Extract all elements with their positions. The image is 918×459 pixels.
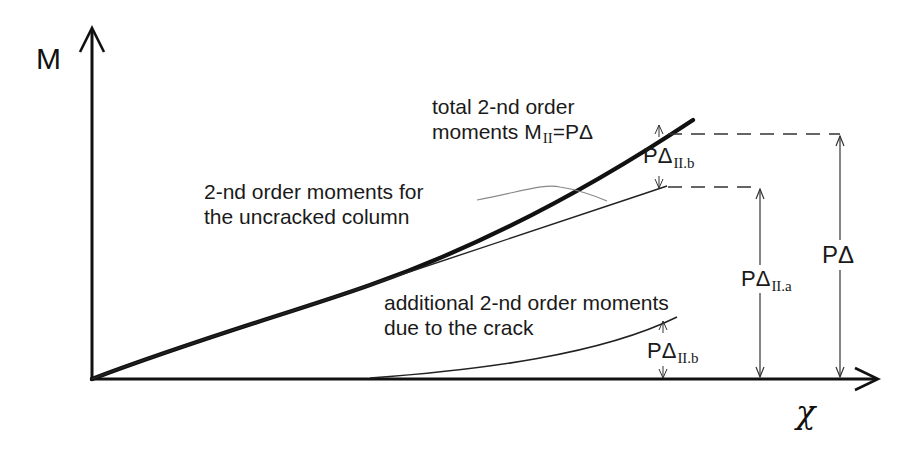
total-label-line1: total 2-nd order bbox=[432, 94, 593, 119]
uncracked-leader-line bbox=[477, 186, 607, 201]
dim-total-label: PΔ bbox=[822, 240, 854, 270]
total-moments-label: total 2-nd order moments MII=PΔ bbox=[432, 94, 593, 147]
uncracked-moments-label: 2-nd order moments for the uncracked col… bbox=[204, 179, 423, 229]
total-moments-curve bbox=[92, 120, 693, 379]
x-axis-label: χ bbox=[796, 393, 815, 431]
y-axis-label: M bbox=[36, 42, 61, 76]
total-label-line2: moments MII=PΔ bbox=[432, 119, 593, 147]
dim-bottom-b-label: PΔII.b bbox=[647, 337, 699, 365]
diagram-canvas bbox=[0, 0, 918, 459]
uncracked-label-line1: 2-nd order moments for bbox=[204, 179, 423, 204]
uncracked-label-line2: the uncracked column bbox=[204, 204, 423, 229]
dim-a-label: PΔII.a bbox=[741, 265, 792, 293]
y-axis bbox=[80, 28, 104, 381]
crack-moments-label: additional 2-nd order moments due to the… bbox=[384, 290, 669, 340]
crack-label-line2: due to the crack bbox=[384, 315, 669, 340]
crack-label-line1: additional 2-nd order moments bbox=[384, 290, 669, 315]
dim-top-b-label: PΔII.b bbox=[643, 142, 695, 170]
